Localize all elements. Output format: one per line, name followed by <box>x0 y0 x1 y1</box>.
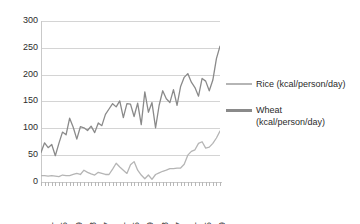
y-tick-label: 0 <box>4 177 38 186</box>
x-tick <box>109 182 110 186</box>
x-tick <box>88 182 89 186</box>
x-tick <box>181 182 182 186</box>
x-tick-label: 1985 <box>131 222 141 224</box>
x-tick <box>98 182 99 186</box>
x-tick <box>188 182 189 186</box>
x-tick <box>209 182 210 186</box>
x-tick-label: 1977 <box>102 222 112 224</box>
x-tick <box>184 182 185 186</box>
legend-label-wheat-line1: Wheat <box>256 105 282 115</box>
x-tick <box>206 182 207 186</box>
x-tick <box>148 182 149 186</box>
x-tick <box>59 182 60 186</box>
x-tick <box>134 182 135 186</box>
x-tick <box>166 182 167 186</box>
x-tick <box>152 182 153 186</box>
x-tick-label: 1989 <box>145 222 155 224</box>
x-tick-label: 1965 <box>59 222 69 224</box>
x-tick-label: 2005 <box>203 222 213 224</box>
x-tick-label: 1969 <box>74 222 84 224</box>
x-tick <box>199 182 200 186</box>
x-tick <box>170 182 171 186</box>
x-tick <box>73 182 74 186</box>
x-tick <box>55 182 56 186</box>
x-tick <box>195 182 196 186</box>
legend-label-rice-line1: Rice (kcal/person/day) <box>256 79 346 89</box>
x-tick <box>131 182 132 186</box>
y-tick-label: 150 <box>4 96 38 105</box>
x-tick-label: 1981 <box>117 222 127 224</box>
x-tick-label: 2001 <box>188 222 198 224</box>
y-tick-label: 250 <box>4 43 38 52</box>
legend-swatch-wheat <box>226 109 252 112</box>
x-axis-labels: 1961196519691973197719811985198919931997… <box>0 188 360 224</box>
x-tick <box>80 182 81 186</box>
x-tick <box>145 182 146 186</box>
x-tick <box>138 182 139 186</box>
x-tick <box>216 182 217 186</box>
x-tick <box>105 182 106 186</box>
x-tick <box>84 182 85 186</box>
x-axis-ticks <box>41 182 222 187</box>
x-tick <box>62 182 63 186</box>
x-tick <box>48 182 49 186</box>
chart-legend: Rice (kcal/person/day) Wheat (kcal/perso… <box>226 78 360 142</box>
legend-item-rice: Rice (kcal/person/day) <box>226 78 360 90</box>
legend-label-wheat-line2: (kcal/person/day) <box>256 116 325 128</box>
x-tick <box>102 182 103 186</box>
x-tick <box>159 182 160 186</box>
series-container <box>41 21 220 182</box>
x-tick <box>213 182 214 186</box>
x-tick <box>177 182 178 186</box>
x-tick <box>41 182 42 186</box>
legend-label-wheat: Wheat (kcal/person/day) <box>256 104 325 128</box>
legend-swatch-rice <box>226 83 252 85</box>
series-line <box>41 131 220 179</box>
x-tick <box>202 182 203 186</box>
y-tick-label: 50 <box>4 150 38 159</box>
x-tick <box>70 182 71 186</box>
series-line <box>41 46 220 155</box>
x-tick-label: 1993 <box>160 222 170 224</box>
x-tick <box>45 182 46 186</box>
x-tick <box>120 182 121 186</box>
x-tick <box>156 182 157 186</box>
x-tick <box>141 182 142 186</box>
legend-label-rice: Rice (kcal/person/day) <box>256 78 346 90</box>
x-tick-label: 2009 <box>217 222 227 224</box>
line-chart: 300 250 200 150 100 50 0 196119651969197… <box>0 0 360 224</box>
x-tick <box>66 182 67 186</box>
y-tick-label: 200 <box>4 70 38 79</box>
y-tick-label: 300 <box>4 16 38 25</box>
x-tick <box>91 182 92 186</box>
x-tick <box>52 182 53 186</box>
x-tick <box>95 182 96 186</box>
x-tick <box>163 182 164 186</box>
x-tick <box>77 182 78 186</box>
legend-item-wheat: Wheat (kcal/person/day) <box>226 104 360 128</box>
x-tick-label: 1973 <box>88 222 98 224</box>
x-tick <box>173 182 174 186</box>
x-tick <box>127 182 128 186</box>
y-tick-label: 100 <box>4 123 38 132</box>
x-tick <box>191 182 192 186</box>
x-tick-label: 1961 <box>45 222 55 224</box>
x-tick <box>220 182 221 186</box>
x-tick <box>113 182 114 186</box>
x-tick <box>123 182 124 186</box>
x-tick <box>116 182 117 186</box>
x-tick-label: 1997 <box>174 222 184 224</box>
